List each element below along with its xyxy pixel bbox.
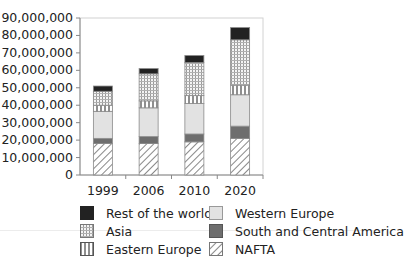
bar-segment — [185, 134, 204, 142]
bar-segment — [93, 86, 112, 91]
legend-item-rest-of-world: Rest of the world — [80, 205, 212, 221]
y-tick-label: 70,000,000 — [1, 46, 73, 60]
bar-segment — [185, 62, 204, 95]
legend-item-nafta: NAFTA — [209, 241, 275, 257]
legend-item-western-europe: Western Europe — [209, 205, 334, 221]
y-tick-label: 40,000,000 — [1, 98, 73, 112]
bar-segment — [139, 101, 158, 108]
bar-segment — [93, 111, 112, 138]
bar-segment — [231, 138, 250, 175]
y-tick-label: 90,000,000 — [1, 11, 73, 25]
bar-segment — [93, 91, 112, 105]
bar-segment — [231, 126, 250, 138]
bar-segment — [231, 95, 250, 126]
bar-segment — [185, 103, 204, 134]
swatch-vertical-lines-icon — [80, 242, 94, 256]
x-tick-label: 2006 — [129, 183, 169, 198]
y-tick-label: 10,000,000 — [1, 151, 73, 165]
bar-segment — [93, 105, 112, 111]
swatch-black-icon — [80, 206, 94, 220]
bar-segment — [139, 74, 158, 101]
x-tick-label: 1999 — [83, 183, 123, 198]
bar-segment — [185, 96, 204, 104]
swatch-hatch-icon — [209, 242, 223, 256]
bar-segment — [231, 28, 250, 40]
bar-segment — [93, 138, 112, 143]
x-tick-label: 2010 — [174, 183, 214, 198]
y-tick-label: 0 — [65, 168, 73, 182]
legend-item-asia: Asia — [80, 223, 132, 239]
plot-area — [76, 18, 263, 179]
x-tick-label: 2020 — [220, 183, 260, 198]
bar-segment — [93, 144, 112, 175]
legend-item-south-central-america: South and Central America — [209, 223, 404, 239]
bar-segment — [139, 144, 158, 175]
y-tick-label: 50,000,000 — [1, 81, 73, 95]
swatch-dark-gray-icon — [209, 224, 223, 238]
legend-item-eastern-europe: Eastern Europe — [80, 241, 201, 257]
swatch-light-gray-icon — [209, 206, 223, 220]
bar-segment — [139, 137, 158, 144]
bar-segment — [139, 69, 158, 74]
swatch-grid-icon — [80, 224, 94, 238]
bar-segment — [231, 40, 250, 85]
bar-segment — [185, 56, 204, 63]
y-tick-label: 20,000,000 — [1, 133, 73, 147]
y-tick-label: 30,000,000 — [1, 116, 73, 130]
bar-segment — [231, 85, 250, 95]
y-tick-label: 80,000,000 — [1, 28, 73, 42]
bar-segment — [139, 108, 158, 137]
y-tick-label: 60,000,000 — [1, 63, 73, 77]
bar-segment — [185, 142, 204, 175]
